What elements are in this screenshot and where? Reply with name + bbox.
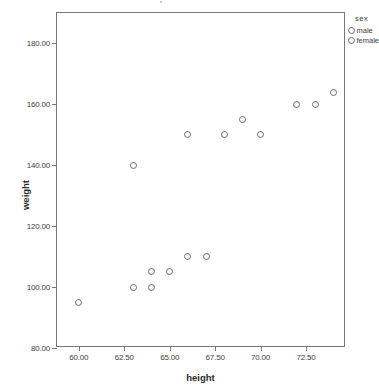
legend-item-label: male <box>357 26 373 35</box>
x-axis-tick <box>215 346 216 351</box>
data-point <box>330 89 337 96</box>
data-point <box>257 131 264 138</box>
x-axis-tick-label: 72.50 <box>296 353 315 362</box>
scatter-plot: weight 80.00100.00120.00140.00160.00180.… <box>0 0 379 390</box>
x-axis-tick-label: 67.50 <box>206 353 225 362</box>
y-axis-title: weight <box>20 180 31 210</box>
y-axis-tick <box>52 348 57 349</box>
y-axis-tick <box>52 287 57 288</box>
data-point <box>184 131 191 138</box>
legend-item-male[interactable]: male <box>348 26 379 35</box>
data-point <box>148 268 155 275</box>
legend-title: sex <box>355 14 379 23</box>
data-point <box>148 284 155 291</box>
x-axis-tick <box>79 346 80 351</box>
legend-item-label: female <box>357 36 379 45</box>
y-axis-tick <box>52 43 57 44</box>
data-point <box>293 101 300 108</box>
image-artifact <box>160 1 162 3</box>
open-circle-icon <box>348 37 355 44</box>
y-axis-tick <box>52 226 57 227</box>
y-axis-tick-label: 160.00 <box>27 100 50 109</box>
data-point <box>239 116 246 123</box>
legend-items: malefemale <box>348 26 379 45</box>
plot-frame: 80.00100.00120.00140.00160.00180.0060.00… <box>56 12 345 347</box>
y-axis-tick-label: 100.00 <box>27 283 50 292</box>
y-axis-tick <box>52 104 57 105</box>
y-axis-tick-label: 140.00 <box>27 161 50 170</box>
x-axis-tick <box>124 346 125 351</box>
data-point <box>130 284 137 291</box>
data-point <box>166 268 173 275</box>
x-axis-tick <box>306 346 307 351</box>
x-axis-tick <box>170 346 171 351</box>
data-point <box>312 101 319 108</box>
data-point <box>75 299 82 306</box>
y-axis-tick-label: 80.00 <box>31 344 50 353</box>
data-point <box>130 162 137 169</box>
y-axis-tick <box>52 165 57 166</box>
y-axis-tick-label: 180.00 <box>27 39 50 48</box>
plot-area: 80.00100.00120.00140.00160.00180.0060.00… <box>57 13 344 346</box>
x-axis-tick-label: 70.00 <box>251 353 270 362</box>
legend-item-female[interactable]: female <box>348 36 379 45</box>
open-circle-icon <box>348 27 355 34</box>
y-axis-tick-label: 120.00 <box>27 222 50 231</box>
x-axis-tick-label: 65.00 <box>160 353 179 362</box>
data-point <box>203 253 210 260</box>
legend: sex malefemale <box>348 14 379 46</box>
x-axis-tick-label: 60.00 <box>69 353 88 362</box>
x-axis-tick-label: 62.50 <box>115 353 134 362</box>
x-axis-tick <box>261 346 262 351</box>
data-point <box>184 253 191 260</box>
data-point <box>221 131 228 138</box>
x-axis-title: height <box>56 372 345 383</box>
